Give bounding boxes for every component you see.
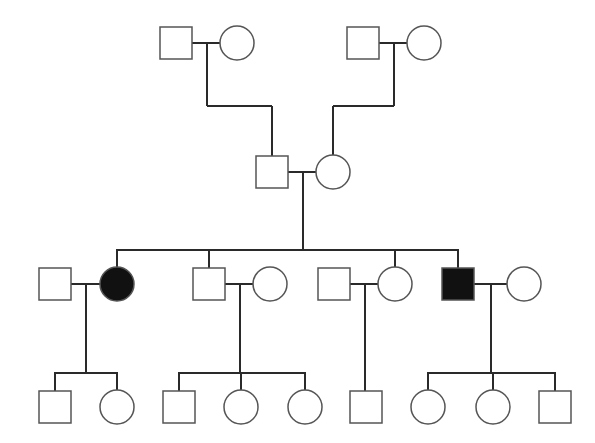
unaffected-female-iv-7 [411,390,445,424]
unaffected-male-iv-3 [163,391,195,423]
unaffected-female-ii-2 [316,155,350,189]
unaffected-female-iii-4 [253,267,287,301]
unaffected-female-iv-2 [100,390,134,424]
unaffected-male-iv-6 [350,391,382,423]
pedigree-lines [54,43,556,391]
unaffected-female-i-4 [407,26,441,60]
unaffected-male-iii-3 [193,268,225,300]
unaffected-male-ii-1 [256,156,288,188]
unaffected-male-iii-1 [39,268,71,300]
pedigree-chart [0,0,595,443]
unaffected-male-i-3 [347,27,379,59]
unaffected-female-i-2 [220,26,254,60]
affected-female-iii-2 [100,267,134,301]
unaffected-female-iii-8 [507,267,541,301]
unaffected-female-iii-6 [378,267,412,301]
unaffected-female-iv-8 [476,390,510,424]
unaffected-female-iv-5 [288,390,322,424]
unaffected-male-i-1 [160,27,192,59]
unaffected-female-iv-4 [224,390,258,424]
unaffected-male-iv-1 [39,391,71,423]
unaffected-male-iii-5 [318,268,350,300]
unaffected-male-iv-9 [539,391,571,423]
affected-male-iii-7 [442,268,474,300]
